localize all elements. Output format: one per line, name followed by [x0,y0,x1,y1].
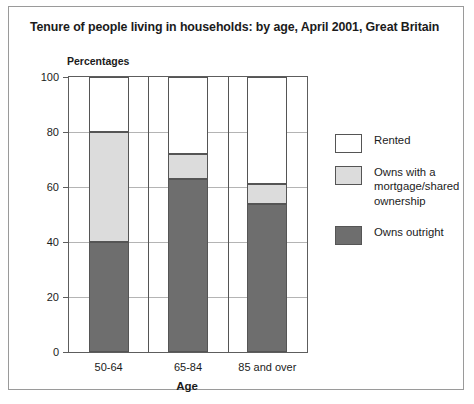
legend-item[interactable]: Owns with a mortgage/shared ownership [335,165,465,209]
legend-swatch-outright [335,226,362,245]
bar-segment-outright[interactable] [168,179,208,352]
chart-title: Tenure of people living in households: b… [30,20,450,34]
plot-area: 02040608010050-6465-8485 and over [68,76,308,353]
y-axis-tick [63,242,68,243]
legend-item[interactable]: Rented [335,133,465,148]
bar-segment-mortgage[interactable] [247,184,287,203]
legend-swatch-rented [335,134,362,153]
y-axis-tick [63,297,68,298]
chart-legend: RentedOwns with a mortgage/shared owners… [335,133,465,257]
bar-segment-rented[interactable] [247,77,287,184]
y-axis-tick [63,187,68,188]
bar-segment-rented[interactable] [168,77,208,154]
bar-stack[interactable] [247,77,287,352]
y-axis-tick-label: 80 [47,126,59,138]
bar-stack[interactable] [168,77,208,352]
y-axis-tick-label: 40 [47,236,59,248]
y-axis-tick [63,352,68,353]
x-axis-tick-label: 85 and over [238,361,296,373]
bar-segment-mortgage[interactable] [168,154,208,179]
x-axis-tick-label: 65-84 [174,361,202,373]
legend-label: Rented [374,133,465,148]
y-axis-tick-label: 100 [41,71,59,83]
bar-stack[interactable] [89,77,129,352]
x-axis-title: Age [176,380,198,392]
y-axis-tick [63,132,68,133]
bar-segment-rented[interactable] [89,77,129,132]
x-axis-tick-label: 50-64 [95,361,123,373]
category-separator [228,77,229,352]
units-label: Percentages [67,55,129,67]
bar-segment-outright[interactable] [247,204,287,353]
y-axis-tick-label: 0 [53,346,59,358]
category-separator [148,77,149,352]
bar-segment-mortgage[interactable] [89,132,129,242]
legend-swatch-mortgage [335,166,362,185]
chart-figure: Tenure of people living in households: b… [8,6,464,390]
y-axis-tick-label: 60 [47,181,59,193]
legend-label: Owns outright [374,225,465,240]
bar-segment-outright[interactable] [89,242,129,352]
y-axis-tick [63,77,68,78]
y-axis-tick-label: 20 [47,291,59,303]
legend-item[interactable]: Owns outright [335,225,465,240]
legend-label: Owns with a mortgage/shared ownership [374,165,465,209]
